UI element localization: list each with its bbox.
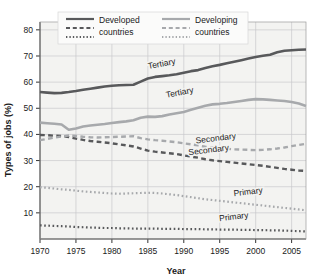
- x-tick-label: 2005: [282, 246, 301, 256]
- x-axis-title: Year: [166, 266, 186, 276]
- x-tick-label: 1995: [210, 246, 229, 256]
- legend-label-line2: countries: [195, 27, 230, 37]
- y-tick-label: 50: [24, 103, 34, 113]
- legend-label-line1: Developing: [195, 15, 238, 25]
- x-tick-label: 2000: [246, 246, 265, 256]
- y-tick-label: 20: [24, 182, 34, 192]
- y-tick-label: 60: [24, 77, 34, 87]
- y-tick-label: 80: [24, 25, 34, 35]
- jobs-by-sector-line-chart: 1020304050607080 19701975198019851990199…: [0, 0, 313, 280]
- chart-legend: DevelopedcountriesDevelopingcountries: [58, 12, 248, 44]
- x-tick-label: 1970: [31, 246, 50, 256]
- y-tick-label: 30: [24, 156, 34, 166]
- legend-label-line1: Developed: [99, 15, 140, 25]
- y-axis-title: Types of jobs (%): [3, 103, 13, 177]
- legend-label-line2: countries: [99, 27, 134, 37]
- x-tick-label: 1985: [138, 246, 157, 256]
- y-tick-label: 10: [24, 208, 34, 218]
- y-tick-label: 70: [24, 51, 34, 61]
- y-tick-label: 40: [24, 129, 34, 139]
- x-tick-label: 1980: [102, 246, 121, 256]
- x-tick-label: 1990: [174, 246, 193, 256]
- x-tick-label: 1975: [66, 246, 85, 256]
- chart-container: 1020304050607080 19701975198019851990199…: [0, 0, 313, 280]
